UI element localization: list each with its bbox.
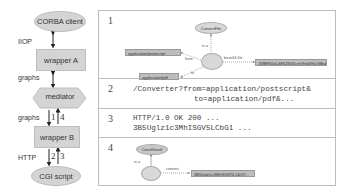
http-label: HTTP	[18, 154, 36, 161]
request-line-1: /Converter?from=application/postscript&	[133, 84, 311, 94]
step-3: 3	[60, 151, 65, 161]
wrapper-b-label: wrapper B	[40, 133, 74, 142]
wrapper-a-label: wrapper A	[44, 56, 78, 65]
graphs-label-bottom: graphs	[18, 114, 39, 121]
corba-client-label: CORBA client	[37, 17, 83, 26]
from-edge-label: from	[185, 57, 193, 61]
graphs-label-top: graphs	[18, 74, 39, 81]
step-2: 2	[51, 151, 56, 161]
blank-node	[141, 166, 161, 181]
row-number: 2	[108, 83, 113, 94]
mediator-node: mediator	[36, 92, 84, 104]
isa-label: is-a	[202, 44, 208, 48]
content-value-tag: 3B5Uglz1c3MhISGV5LCbG7...	[191, 170, 255, 177]
iiop-label: IIOP	[18, 38, 32, 45]
wrapper-b-node: wrapper B	[34, 126, 80, 148]
request-line-2: to=application/pdf&...	[194, 94, 294, 104]
blank-node	[201, 53, 223, 70]
convertfile-label: ConvertFile	[201, 26, 221, 31]
corba-client-node: CORBA client	[34, 11, 86, 32]
step-1: 1	[51, 112, 56, 122]
cgi-script-label: CGI script	[39, 172, 72, 181]
mediator-label: mediator	[45, 92, 74, 101]
response-line-2: 3B5Uglz1c3MhISGV5LCbG1 ...	[133, 123, 251, 133]
to-edge-label: to	[191, 71, 194, 75]
content-edge-label: content	[166, 167, 178, 171]
isa-label: is-a	[134, 160, 140, 164]
base64-value-tag: JVBERi0xLjMKJSVDcmVhdG9yOiBkdmlwcyA1...	[255, 59, 327, 66]
table-row-3: 3 HTTP/1.0 OK 200 ... 3B5Uglz1c3MhISGV5L…	[99, 109, 335, 138]
step-4: 4	[60, 112, 65, 122]
convresult-node: ConvResult	[136, 144, 168, 155]
row-number: 3	[108, 113, 113, 124]
convresult-label: ConvResult	[142, 147, 163, 152]
from-value-tag: application/postscript	[125, 49, 181, 56]
convertfile-node: ConvertFile	[195, 22, 227, 34]
table-row-1: 1 ConvertFile is-a application/postscrip…	[99, 11, 335, 79]
cgi-script-node: CGI script	[31, 166, 81, 186]
table-row-4: 4 ConvResult is-a content 3B5Uglz1c3MhIS…	[99, 138, 335, 186]
wrapper-a-node: wrapper A	[36, 49, 86, 71]
response-line-1: HTTP/1.0 OK 200 ...	[133, 113, 220, 123]
base64-edge-label: base64 file	[224, 56, 242, 60]
table-row-2: 2 /Converter?from=application/postscript…	[99, 79, 335, 109]
message-table: 1 ConvertFile is-a application/postscrip…	[98, 10, 336, 186]
